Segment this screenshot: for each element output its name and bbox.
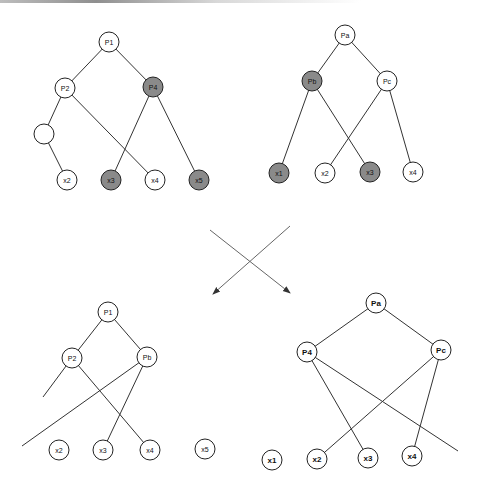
node-label: x4 (146, 447, 154, 454)
node-label: x5 (201, 446, 209, 453)
node-label: P1 (104, 309, 113, 316)
node-x1: x1 (262, 450, 282, 470)
node-label: x3 (364, 454, 373, 463)
node-label: Pa (341, 32, 350, 39)
node-label: Pc (383, 78, 392, 85)
node-label: P4 (149, 84, 158, 91)
edge-P4-x3 (111, 87, 153, 180)
node-label: x5 (195, 177, 203, 184)
node-label: x2 (63, 177, 71, 184)
node-label: x4 (409, 169, 417, 176)
node-x5: x5 (195, 439, 215, 459)
node-P1: P1 (99, 32, 119, 52)
node-label: Pc (436, 346, 446, 355)
tree-top-left: P1P2P4x2x3x4x5 (34, 32, 209, 190)
node-P2: P2 (62, 348, 82, 368)
edge-Pb-x3 (103, 357, 147, 450)
node-x4: x4 (403, 162, 423, 182)
node-label: x4 (408, 452, 417, 461)
node-x2: x2 (307, 449, 327, 469)
node-Pb: Pb (302, 71, 322, 91)
node-label: x2 (55, 447, 63, 454)
node-label: x3 (366, 169, 374, 176)
node-label: x3 (99, 447, 107, 454)
node-x3: x3 (358, 448, 378, 468)
node-x3: x3 (360, 162, 380, 182)
edge-Pc-x2 (325, 81, 387, 173)
node-x5: x5 (189, 170, 209, 190)
node-label: x1 (275, 170, 283, 177)
node-label: Pa (371, 299, 381, 308)
node-label: Pb (143, 354, 152, 361)
node-x2: x2 (57, 170, 77, 190)
edge-Pa-P4 (307, 303, 376, 352)
node-x4: x4 (402, 446, 422, 466)
node-x3: x3 (93, 440, 113, 460)
edge-Pc-x4 (387, 81, 413, 172)
node-label: P2 (61, 85, 70, 92)
tree-bottom-right: PaP4Pcx1x2x3x4 (262, 293, 458, 470)
edge-Pc-x2 (317, 350, 441, 459)
edge-P2-x4 (72, 358, 150, 450)
node-label: x4 (151, 177, 159, 184)
crossover-arrows (210, 226, 290, 294)
edge-Pb-x3 (312, 81, 370, 172)
node-x2: x2 (315, 163, 335, 183)
node-Pa: Pa (335, 25, 355, 45)
edge-P4-x3 (307, 352, 368, 458)
tree-top-right: PaPbPcx1x2x3x4 (269, 25, 423, 183)
node-label: P1 (105, 39, 114, 46)
node-Pa: Pa (366, 293, 386, 313)
node-P2: P2 (55, 78, 75, 98)
node-P4: P4 (143, 77, 163, 97)
node-x1: x1 (269, 163, 289, 183)
edge-Pc-x4 (412, 350, 441, 456)
node-label: x2 (321, 170, 329, 177)
dangling-edge-Pb (22, 357, 147, 446)
node-label: x1 (268, 456, 277, 465)
node-P4: P4 (297, 342, 317, 362)
node-Pb: Pb (137, 347, 157, 367)
node-Pc: Pc (431, 340, 451, 360)
node-P1: P1 (98, 302, 118, 322)
node-circle (34, 124, 54, 144)
tree-diagrams: P1P2P4x2x3x4x5PaPbPcx1x2x3x4P1P2Pbx2x3x4… (22, 25, 458, 470)
node-x3: x3 (101, 170, 121, 190)
tree-bottom-left: P1P2Pbx2x3x4x5 (22, 302, 215, 460)
edge-Pa-Pc (376, 303, 441, 350)
node-x4: x4 (140, 440, 160, 460)
crossover-diagram-canvas: P1P2P4x2x3x4x5PaPbPcx1x2x3x4P1P2Pbx2x3x4… (0, 0, 481, 494)
edge-P2-x4 (65, 88, 155, 180)
node-label: x3 (107, 177, 115, 184)
edge-P4-x5 (153, 87, 199, 180)
dangling-edge-P4 (307, 352, 458, 451)
node-Pc: Pc (377, 71, 397, 91)
node-label: x2 (313, 455, 322, 464)
node-empty (34, 124, 54, 144)
node-x4: x4 (145, 170, 165, 190)
node-label: P4 (302, 348, 312, 357)
node-x2: x2 (49, 440, 69, 460)
node-label: P2 (68, 355, 77, 362)
edge-Pb-x1 (279, 81, 312, 173)
node-label: Pb (308, 78, 317, 85)
